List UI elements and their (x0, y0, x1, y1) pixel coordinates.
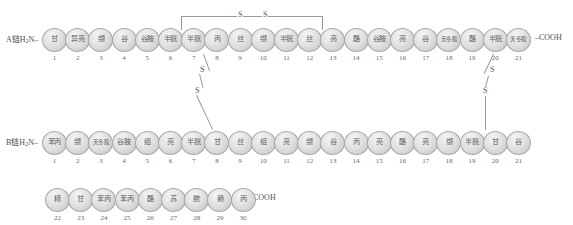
bond-a6-a11-sulfur-1: S (237, 11, 243, 19)
residue-b22: 精 (45, 188, 70, 212)
residue-a14: 酪 (344, 28, 369, 52)
residue-b25-index: 25 (115, 214, 140, 222)
residue-b2: 缬 (65, 131, 90, 155)
bond-a7-b7-mid-segment (199, 74, 204, 88)
residue-b3-index: 3 (88, 157, 113, 165)
residue-b24-index: 24 (91, 214, 116, 222)
residue-b4: 谷胺 (112, 131, 137, 155)
residue-a6: 半胱 (158, 28, 183, 52)
residue-a8: 丙 (204, 28, 229, 52)
bond-a20-b19-sulfur-2: S (482, 87, 488, 95)
residue-b12-index: 12 (297, 157, 322, 165)
residue-b15-index: 15 (367, 157, 392, 165)
bond-a20-b19-lower-segment (485, 96, 486, 130)
residue-b6: 亮 (158, 131, 183, 155)
residue-b9-index: 9 (228, 157, 253, 165)
residue-b5: 组 (135, 131, 160, 155)
residue-b23-index: 23 (68, 214, 93, 222)
residue-b30-index: 30 (231, 214, 256, 222)
residue-a17: 谷 (413, 28, 438, 52)
residue-a18: 天冬胺 (436, 28, 461, 52)
residue-b20-index: 20 (483, 157, 508, 165)
residue-b22-index: 22 (45, 214, 70, 222)
residue-b14-index: 14 (344, 157, 369, 165)
residue-a19: 酪 (460, 28, 485, 52)
residue-b2-index: 2 (65, 157, 90, 165)
residue-a11: 半胱 (274, 28, 299, 52)
residue-b19-index: 19 (460, 157, 485, 165)
residue-b4-index: 4 (112, 157, 137, 165)
residue-a11-index: 11 (274, 54, 299, 62)
residue-a5: 谷胺 (135, 28, 160, 52)
bond-a6-a11-top-bar (181, 16, 322, 17)
residue-a4-index: 4 (112, 54, 137, 62)
residue-b9: 丝 (228, 131, 253, 155)
residue-b11: 亮 (274, 131, 299, 155)
residue-b12: 缬 (297, 131, 322, 155)
residue-b29-index: 29 (207, 214, 232, 222)
residue-a1: 甘 (42, 28, 67, 52)
residue-b27: 苏 (161, 188, 186, 212)
residue-b18: 缬 (436, 131, 461, 155)
residue-a1-index: 1 (42, 54, 67, 62)
residue-b7: 半胱 (181, 131, 206, 155)
residue-b24: 苯丙 (91, 188, 116, 212)
residue-a14-index: 14 (344, 54, 369, 62)
residue-a19-index: 19 (460, 54, 485, 62)
residue-a9-index: 9 (228, 54, 253, 62)
residue-b21: 谷 (506, 131, 531, 155)
residue-b8: 甘 (204, 131, 229, 155)
residue-b27-index: 27 (161, 214, 186, 222)
residue-b25: 苯丙 (115, 188, 140, 212)
bond-a7-b7-sulfur-2: S (194, 87, 200, 95)
bond-a7-b7-sulfur-1: S (199, 66, 205, 74)
residue-b17-index: 17 (413, 157, 438, 165)
residue-a13: 亮 (320, 28, 345, 52)
residue-a5-index: 5 (135, 54, 160, 62)
residue-b17: 亮 (413, 131, 438, 155)
residue-b28-index: 28 (184, 214, 209, 222)
residue-b20: 甘 (483, 131, 508, 155)
residue-a2-index: 2 (65, 54, 90, 62)
residue-a13-index: 13 (320, 54, 345, 62)
residue-a18-index: 18 (436, 54, 461, 62)
residue-a20: 半胱 (483, 28, 508, 52)
residue-b18-index: 18 (436, 157, 461, 165)
residue-a20-index: 20 (483, 54, 508, 62)
residue-b8-index: 8 (204, 157, 229, 165)
residue-b23: 甘 (68, 188, 93, 212)
residue-a7-index: 7 (181, 54, 206, 62)
residue-b15: 亮 (367, 131, 392, 155)
a-chain-c-terminus-label: –COOH (535, 33, 562, 42)
residue-b13: 谷 (320, 131, 345, 155)
residue-b7-index: 7 (181, 157, 206, 165)
residue-b5-index: 5 (135, 157, 160, 165)
residue-a10-index: 10 (251, 54, 276, 62)
residue-a4: 谷 (112, 28, 137, 52)
residue-a17-index: 17 (413, 54, 438, 62)
residue-b26-index: 26 (138, 214, 163, 222)
residue-b1: 苯丙 (42, 131, 67, 155)
residue-b10: 组 (251, 131, 276, 155)
residue-b6-index: 6 (158, 157, 183, 165)
residue-b19: 半胱 (460, 131, 485, 155)
residue-a15-index: 15 (367, 54, 392, 62)
residue-b14: 丙 (344, 131, 369, 155)
residue-a12-index: 12 (297, 54, 322, 62)
residue-a15: 谷胺 (367, 28, 392, 52)
b-chain-n-terminus-label: B链H2N– (6, 136, 38, 147)
residue-b13-index: 13 (320, 157, 345, 165)
residue-a3-index: 3 (88, 54, 113, 62)
residue-a7: 半胱 (181, 28, 206, 52)
residue-a10: 缬 (251, 28, 276, 52)
residue-b10-index: 10 (251, 157, 276, 165)
residue-a12: 丝 (297, 28, 322, 52)
residue-b21-index: 21 (506, 157, 531, 165)
residue-a16-index: 16 (390, 54, 415, 62)
bond-a7-b7-lower-segment (196, 95, 213, 130)
residue-b30: 丙 (231, 188, 256, 212)
residue-a21-index: 21 (506, 54, 531, 62)
bond-a20-b19-sulfur-1: S (489, 66, 495, 74)
residue-b16: 酪 (390, 131, 415, 155)
residue-a6-index: 6 (158, 54, 183, 62)
